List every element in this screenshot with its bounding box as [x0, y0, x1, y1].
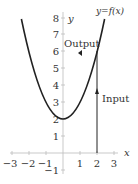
svg-text:−2: −2	[21, 158, 36, 169]
svg-text:1: 1	[77, 158, 83, 169]
svg-text:3: 3	[111, 158, 117, 169]
svg-text:1: 1	[53, 131, 59, 142]
x-axis-label: x	[124, 147, 130, 158]
svg-text:4: 4	[53, 80, 59, 91]
input-label: Input	[102, 93, 129, 104]
svg-text:−3: −3	[3, 158, 18, 169]
arrow-left-icon	[78, 50, 82, 56]
svg-text:7: 7	[53, 29, 59, 40]
svg-text:2: 2	[94, 158, 100, 169]
function-chart: −3 −2 −1 1 2 3 −1 1 2 3 4 5 6 7 8 y x y=…	[0, 0, 138, 184]
output-label: Output	[64, 38, 100, 49]
x-tick-labels: −3 −2 −1 1 2 3	[3, 158, 118, 169]
svg-text:−1: −1	[44, 165, 59, 176]
svg-text:3: 3	[53, 97, 59, 108]
function-label: y=f(x)	[95, 6, 125, 16]
y-tick-labels: −1 1 2 3 4 5 6 7 8	[44, 13, 59, 176]
svg-text:5: 5	[53, 63, 59, 74]
svg-text:6: 6	[53, 46, 59, 57]
y-axis-label: y	[67, 13, 74, 24]
arrow-up-icon	[95, 88, 99, 94]
svg-text:8: 8	[53, 13, 59, 24]
